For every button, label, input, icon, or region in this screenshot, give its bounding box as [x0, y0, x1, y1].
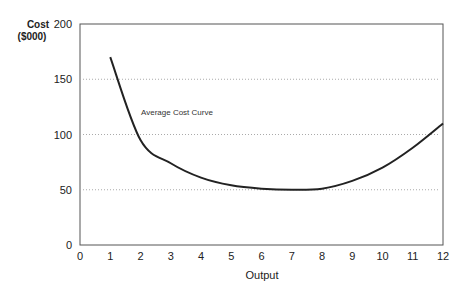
average-cost-curve	[110, 57, 443, 190]
x-tick-label: 2	[137, 250, 143, 262]
x-tick-label: 9	[349, 250, 355, 262]
cost-chart: 050100150200 0123456789101112 Cost ($000…	[0, 0, 467, 295]
x-tick-label: 4	[198, 250, 204, 262]
x-axis-ticks: 0123456789101112	[77, 250, 449, 262]
x-tick-label: 6	[258, 250, 264, 262]
x-tick-label: 0	[77, 250, 83, 262]
x-tick-label: 8	[319, 250, 325, 262]
curve-annotation: Average Cost Curve	[141, 108, 213, 117]
y-axis-ticks: 050100150200	[54, 18, 72, 251]
x-tick-label: 5	[228, 250, 234, 262]
y-tick-label: 200	[54, 18, 72, 30]
y-tick-label: 0	[66, 239, 72, 251]
x-tick-label: 11	[407, 250, 418, 262]
x-tick-label: 3	[168, 250, 174, 262]
y-tick-label: 150	[54, 73, 72, 85]
x-tick-label: 10	[376, 250, 388, 262]
x-tick-label: 7	[289, 250, 295, 262]
y-tick-label: 50	[60, 184, 72, 196]
x-tick-label: 1	[107, 250, 113, 262]
y-axis-label: Cost	[27, 19, 50, 30]
x-axis-label: Output	[245, 269, 278, 281]
y-tick-label: 100	[54, 129, 72, 141]
x-tick-label: 12	[437, 250, 449, 262]
y-axis-unit: ($000)	[18, 31, 47, 42]
gridlines	[83, 79, 440, 190]
